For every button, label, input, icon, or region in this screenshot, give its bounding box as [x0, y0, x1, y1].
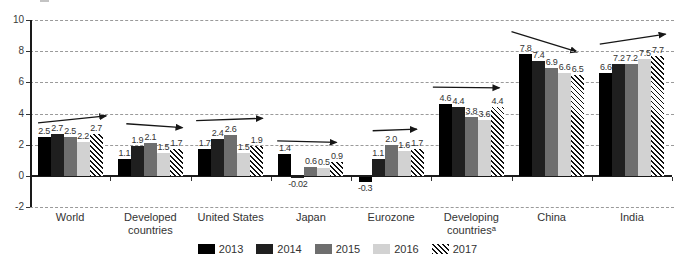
value-label-2017-world: 2.7 [81, 123, 111, 133]
bar-2015-developing-countries [465, 117, 478, 176]
bar-2017-united-states [250, 146, 263, 176]
bar-2013-world [38, 137, 51, 176]
bar-2013-united-states [198, 149, 211, 176]
y-axis-tick-label: -2 [0, 201, 24, 212]
bar-2014-eurozone [372, 159, 385, 176]
bar-2014-united-states [211, 139, 224, 176]
bar-2014-japan [291, 177, 304, 178]
bar-2017-india [651, 56, 664, 176]
bar-2013-developed-countries [118, 159, 131, 176]
legend-label-2016: 2016 [394, 243, 418, 255]
bar-2017-eurozone [411, 149, 424, 176]
bar-2016-developed-countries [157, 153, 170, 176]
category-label-world: World [28, 211, 112, 224]
value-label-2013-japan: 1.4 [270, 143, 300, 153]
legend-label-2017: 2017 [453, 243, 477, 255]
bar-2013-china [519, 54, 532, 176]
legend-item-2013: 2013 [198, 243, 243, 255]
bar-2017-japan [330, 162, 343, 176]
category-label-developed-countries: Developed countries [108, 211, 192, 236]
x-axis-tick [431, 177, 432, 181]
category-label-china: China [510, 211, 594, 224]
legend-item-2017: 2017 [432, 243, 477, 255]
y-axis-tick-label: 6 [0, 76, 24, 87]
legend-label-2014: 2014 [277, 243, 301, 255]
bar-2016-world [77, 142, 90, 176]
bar-2015-china [545, 68, 558, 176]
x-axis-tick [351, 177, 352, 181]
bar-2016-india [638, 59, 651, 176]
bar-2017-developing-countries [491, 107, 504, 176]
bar-2014-developed-countries [131, 146, 144, 176]
legend-item-2015: 2015 [315, 243, 360, 255]
bar-2013-eurozone [359, 177, 372, 182]
bar-2013-india [599, 73, 612, 176]
legend-swatch-2013 [198, 244, 215, 254]
value-label-2017-eurozone: 1.7 [402, 138, 432, 148]
bar-2014-china [532, 61, 545, 176]
x-axis-tick [592, 177, 593, 181]
bar-2015-japan [304, 167, 317, 176]
category-label-japan: Japan [269, 211, 353, 224]
value-label-2017-united-states: 1.9 [242, 135, 272, 145]
trend-arrow-developed-countries [126, 124, 182, 128]
y-axis-tick-label: 2 [0, 139, 24, 150]
trend-arrow-india [600, 34, 666, 44]
value-label-2014-japan: -0.02 [283, 179, 313, 189]
legend-swatch-2015 [315, 244, 332, 254]
value-label-2017-developing-countries: 4.4 [482, 96, 512, 106]
value-label-2017-india: 7.7 [643, 45, 673, 55]
value-label-2013-eurozone: -0.3 [350, 183, 380, 193]
value-label-2017-developed-countries: 1.7 [161, 138, 191, 148]
x-axis-tick [512, 177, 513, 181]
bar-2016-china [558, 73, 571, 176]
bar-chart-figure: 20132014201520162017 1086420-22.52.72.52… [0, 0, 675, 268]
legend-label-2013: 2013 [219, 243, 243, 255]
y-axis-tick-label: 8 [0, 45, 24, 56]
legend-label-2015: 2015 [336, 243, 360, 255]
gridline-y8 [30, 51, 674, 52]
bar-2014-developing-countries [452, 107, 465, 176]
x-axis-tick [271, 177, 272, 181]
y-axis-tick-label: 0 [0, 170, 24, 181]
legend-item-2016: 2016 [373, 243, 418, 255]
value-label-2015-united-states: 2.6 [216, 124, 246, 134]
legend-swatch-2016 [373, 244, 390, 254]
trend-arrow-united-states [196, 118, 263, 120]
y-axis-tick-label: 10 [0, 14, 24, 25]
x-axis-tick [191, 177, 192, 181]
x-axis-tick [672, 177, 673, 181]
legend-swatch-2014 [256, 244, 273, 254]
trend-arrow-developing-countries [433, 87, 500, 88]
y-axis-tick-label: 4 [0, 108, 24, 119]
gridline-y10 [30, 20, 674, 21]
x-axis-tick [110, 177, 111, 181]
bar-2014-india [612, 64, 625, 176]
bar-2017-china [571, 75, 584, 176]
bar-2013-japan [278, 154, 291, 176]
bar-2016-eurozone [398, 151, 411, 176]
legend-item-2014: 2014 [256, 243, 301, 255]
chart-legend: 20132014201520162017 [0, 243, 675, 255]
category-label-india: India [590, 211, 674, 224]
gridline-y-2 [30, 207, 674, 208]
y-axis-tick [26, 207, 30, 208]
category-label-eurozone: Eurozone [349, 211, 433, 224]
bar-2013-developing-countries [439, 104, 452, 176]
value-label-2017-china: 6.5 [563, 64, 593, 74]
bar-2016-united-states [237, 153, 250, 176]
value-label-2017-japan: 0.9 [322, 151, 352, 161]
bar-2015-india [625, 64, 638, 176]
bar-2017-world [90, 134, 103, 176]
bar-2016-developing-countries [478, 120, 491, 176]
cropped-text-artifact [40, 0, 49, 2]
category-label-united-states: United States [189, 211, 273, 224]
legend-swatch-2017 [432, 244, 449, 254]
bar-2014-world [51, 134, 64, 176]
bar-2016-japan [317, 168, 330, 176]
bar-2017-developed-countries [170, 149, 183, 176]
y-axis-line [30, 20, 32, 207]
bar-2015-world [64, 137, 77, 176]
trend-arrow-eurozone [373, 129, 417, 131]
category-label-developing-countries: Developing countriesᵃ [429, 211, 513, 236]
